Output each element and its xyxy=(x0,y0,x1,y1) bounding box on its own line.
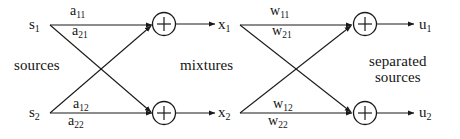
wire-x2-to-adder3-w12 xyxy=(240,26,351,113)
group-label-sources: sources xyxy=(14,58,60,73)
label-weight-w12: w12 xyxy=(273,97,293,111)
group-label-separated-line2: sources xyxy=(369,69,427,85)
label-mixture-1: x1 xyxy=(218,17,231,32)
wire-x1-to-adder4-w21 xyxy=(240,25,351,112)
label-mixture-2: x2 xyxy=(218,105,231,120)
label-output-1: u1 xyxy=(419,17,432,32)
label-weight-a11: a11 xyxy=(70,4,85,18)
label-source-2: s2 xyxy=(29,105,40,120)
label-weight-a21: a21 xyxy=(72,24,88,38)
label-weight-a12: a12 xyxy=(73,97,89,111)
wire-s1-to-adder2-a21 xyxy=(50,25,151,112)
label-weight-w21: w21 xyxy=(272,24,292,38)
label-weight-w11: w11 xyxy=(270,4,289,18)
label-weight-w22: w22 xyxy=(268,114,288,128)
group-label-separated-line1: separated xyxy=(369,53,427,69)
signal-flow-diagram: s1 s2 x1 x2 u1 u2 a11 a21 a12 a22 w11 w2… xyxy=(0,0,460,139)
group-label-mixtures: mixtures xyxy=(180,58,233,73)
wire-s2-to-adder1-a12 xyxy=(50,26,151,113)
label-weight-a22: a22 xyxy=(68,114,84,128)
label-output-2: u2 xyxy=(419,105,432,120)
label-source-1: s1 xyxy=(29,17,40,32)
group-label-separated-sources: separated sources xyxy=(369,53,427,85)
